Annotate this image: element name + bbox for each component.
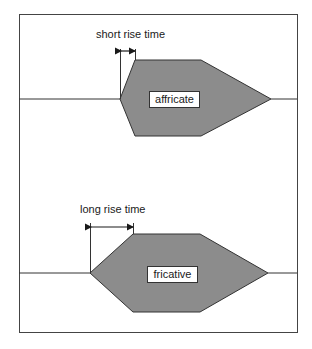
rise-time-diagram — [0, 0, 312, 349]
short-rise-time-label: short rise time — [96, 28, 165, 40]
long-rise-time-label: long rise time — [80, 203, 145, 215]
fricative-label: fricative — [147, 266, 198, 283]
affricate-label: affricate — [149, 91, 200, 108]
